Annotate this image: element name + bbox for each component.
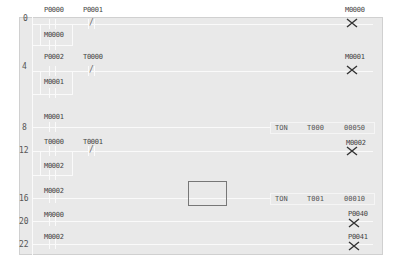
rung-wire <box>33 127 271 128</box>
contact-label: P0000 <box>44 6 64 14</box>
timer-function-block[interactable]: TON T000 00050 <box>270 122 375 134</box>
step-number: 8 <box>22 123 27 132</box>
no-contact[interactable] <box>48 40 57 50</box>
branch-wire <box>72 24 73 45</box>
no-contact[interactable] <box>48 216 57 226</box>
timer-address: T000 <box>307 124 324 132</box>
timer-function: TON <box>275 195 288 203</box>
rung-wire <box>33 24 373 25</box>
coil-x-icon[interactable] <box>348 218 360 228</box>
contact-label: T0000 <box>44 138 64 146</box>
rung-wire <box>33 244 373 245</box>
nc-slash-icon: / <box>89 18 94 27</box>
step-number: 4 <box>22 62 27 71</box>
nc-slash-icon: / <box>89 145 94 154</box>
branch-contact-label: M0002 <box>44 162 64 170</box>
rung-wire <box>33 71 373 72</box>
timer-preset: 00050 <box>344 124 365 132</box>
step-number: 12 <box>19 146 29 155</box>
branch-wire <box>40 24 41 45</box>
coil-label: P0040 <box>348 210 368 218</box>
branch-wire <box>40 151 41 175</box>
no-contact[interactable] <box>48 88 57 98</box>
coil-label: M0000 <box>345 6 365 14</box>
coil-x-icon[interactable] <box>346 18 358 28</box>
branch-contact-label: M0001 <box>44 78 64 86</box>
rung-wire <box>33 198 271 199</box>
branch-wire <box>40 71 41 94</box>
branch-wire <box>72 71 73 94</box>
timer-address: T001 <box>307 195 324 203</box>
no-contact[interactable] <box>48 122 57 132</box>
no-contact[interactable] <box>48 146 57 156</box>
step-number: 16 <box>19 194 29 203</box>
timer-function-block[interactable]: TON T001 00010 <box>270 193 375 205</box>
no-contact[interactable] <box>48 19 57 29</box>
coil-x-icon[interactable] <box>346 146 358 156</box>
timer-preset: 00010 <box>344 195 365 203</box>
contact-label: P0002 <box>44 53 64 61</box>
timer-function: TON <box>275 124 288 132</box>
contact-label: M0001 <box>44 113 64 121</box>
step-number: 22 <box>19 240 29 249</box>
no-contact[interactable] <box>48 239 57 249</box>
rung-wire <box>33 221 373 222</box>
ladder-editor-panel <box>19 17 383 255</box>
cursor-selection-box[interactable] <box>188 181 227 206</box>
left-power-rail <box>32 17 33 255</box>
branch-contact-label: M0000 <box>44 31 64 39</box>
contact-label: P0001 <box>83 6 103 14</box>
no-contact[interactable] <box>48 66 57 76</box>
no-contact[interactable] <box>48 193 57 203</box>
no-contact[interactable] <box>48 170 57 180</box>
contact-label: T0000 <box>83 53 103 61</box>
step-number: 20 <box>19 217 29 226</box>
step-number: 0 <box>23 14 28 23</box>
nc-slash-icon: / <box>89 65 94 74</box>
coil-x-icon[interactable] <box>348 241 360 251</box>
coil-x-icon[interactable] <box>346 65 358 75</box>
rung-wire <box>33 151 373 152</box>
coil-label: M0001 <box>345 53 365 61</box>
coil-label: P0041 <box>348 233 368 241</box>
branch-wire <box>72 151 73 175</box>
